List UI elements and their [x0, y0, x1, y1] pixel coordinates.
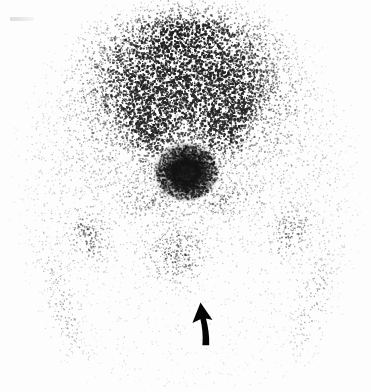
scintigram-image — [0, 0, 371, 392]
faint-corner-mark — [10, 17, 34, 21]
scintigram-figure: Bone scintigraphy Anterior pelvis — [0, 0, 371, 392]
